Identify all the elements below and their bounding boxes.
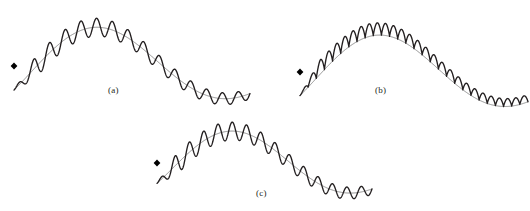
panel-label-a: (a) [108, 85, 119, 95]
start-marker-a [11, 63, 18, 70]
waveform-figure [0, 0, 530, 211]
panel-label-b: (b) [375, 85, 386, 95]
panel-a [11, 18, 250, 104]
panel-label-c: (c) [256, 188, 267, 198]
panel-b [297, 23, 528, 107]
start-marker-c [154, 160, 161, 167]
start-marker-b [297, 69, 304, 76]
modulated-wave-b [300, 23, 528, 107]
modulated-wave-a [14, 18, 250, 104]
